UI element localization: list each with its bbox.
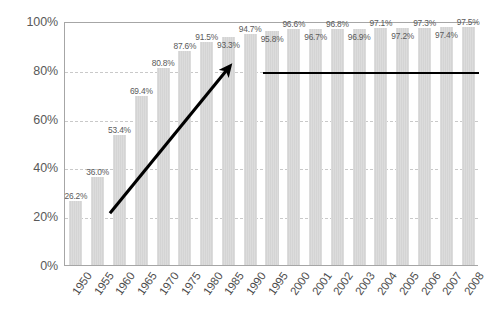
bar-data-label: 53.4% [108,125,131,135]
bar-data-label: 95.8% [261,34,284,44]
bar [222,37,235,265]
y-tick-label: 20% [0,210,58,224]
x-tick-label: 1985 [222,270,246,297]
bar-data-label: 36.0% [86,167,109,177]
bar-data-label: 96.6% [282,19,305,29]
bar-data-label: 91.5% [195,32,218,42]
bar [440,27,453,265]
x-tick-label: 1970 [157,270,181,297]
x-axis: 1950195519601965197019751980198519901995… [64,266,478,315]
x-tick-label: 2001 [309,270,333,297]
x-tick-label: 2006 [418,270,442,297]
bar [244,34,257,265]
y-tick-label: 100% [0,15,58,29]
y-tick-label: 80% [0,64,58,78]
bars-layer [65,23,478,265]
saturation-benchmark-line [263,72,479,74]
bar [178,51,191,265]
bar-data-label: 97.4% [435,30,458,40]
y-tick-label: 60% [0,113,58,127]
bar-data-label: 80.8% [152,58,175,68]
bar [309,29,322,265]
x-tick-label: 2008 [462,270,486,297]
bar [353,29,366,265]
bar [331,29,344,265]
bar-data-label: 69.4% [130,86,153,96]
bar [418,28,431,265]
y-tick-label: 0% [0,259,58,273]
x-tick-label: 1990 [244,270,268,297]
x-tick-label: 2004 [375,270,399,297]
bar [69,201,82,265]
y-tick-label: 40% [0,161,58,175]
bar-data-label: 97.1% [370,18,393,28]
penetration-rate-bar-chart: 0%20%40%60%80%100% 26.2%36.0%53.4%69.4%8… [0,0,492,315]
bar-data-label: 97.2% [391,31,414,41]
bar-data-label: 94.7% [239,24,262,34]
bar [374,28,387,265]
plot-area: 26.2%36.0%53.4%69.4%80.8%87.6%91.5%93.3%… [64,22,478,266]
bar [157,68,170,265]
bar-data-label: 96.7% [304,32,327,42]
bar-data-label: 96.8% [326,19,349,29]
bar [200,42,213,265]
bar [91,177,104,265]
x-tick-label: 1960 [113,270,137,297]
bar-data-label: 26.2% [65,191,88,201]
x-tick-label: 1965 [135,270,159,297]
bar [287,29,300,265]
x-tick-label: 1950 [70,270,94,297]
bar [396,28,409,265]
y-axis: 0%20%40%60%80%100% [0,0,58,315]
bar [113,135,126,265]
x-tick-label: 1980 [200,270,224,297]
x-tick-label: 2003 [353,270,377,297]
bar-data-label: 93.3% [217,40,240,50]
bar-data-label: 87.6% [173,41,196,51]
bar [265,31,278,265]
x-tick-label: 2002 [331,270,355,297]
x-tick-label: 2000 [288,270,312,297]
x-tick-label: 1955 [91,270,115,297]
bar [462,27,475,265]
bar-data-label: 97.5% [457,17,480,27]
x-tick-label: 1975 [179,270,203,297]
bar-data-label: 96.9% [348,32,371,42]
x-tick-label: 2005 [397,270,421,297]
bar-data-label: 97.3% [413,18,436,28]
x-tick-label: 1995 [266,270,290,297]
bar [135,96,148,265]
x-tick-label: 2007 [440,270,464,297]
